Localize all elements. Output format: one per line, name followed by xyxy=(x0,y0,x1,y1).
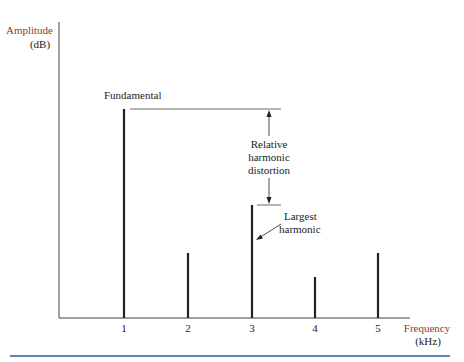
distortion-label-line2: harmonic xyxy=(248,151,290,163)
harmonic-distortion-diagram: Amplitude (dB) Fundamental Relative harm… xyxy=(0,0,464,362)
distortion-label-line3: distortion xyxy=(248,164,291,176)
largest-harmonic-pointer xyxy=(259,224,281,238)
arrow-up-icon xyxy=(267,110,272,117)
largest-harmonic-label-line1: Largest xyxy=(284,210,317,222)
x-tick-5: 5 xyxy=(375,322,381,334)
largest-harmonic-label-line2: harmonic xyxy=(279,223,321,235)
distortion-label-line1: Relative xyxy=(251,138,288,150)
x-axis-title: Frequency xyxy=(404,322,451,334)
x-tick-4: 4 xyxy=(312,322,318,334)
pointer-arrow-icon xyxy=(256,235,263,241)
y-axis-title: Amplitude xyxy=(6,24,53,36)
x-axis-unit: (kHz) xyxy=(415,335,441,348)
arrow-down-icon xyxy=(267,197,272,204)
x-tick-1: 1 xyxy=(121,322,127,334)
x-tick-3: 3 xyxy=(249,322,255,334)
y-axis-unit: (dB) xyxy=(30,38,51,51)
fundamental-label: Fundamental xyxy=(104,89,161,101)
x-tick-2: 2 xyxy=(185,322,191,334)
